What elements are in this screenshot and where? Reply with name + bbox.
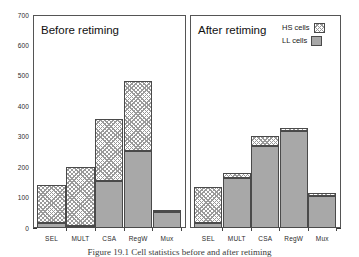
stacked-bar: [308, 193, 336, 228]
stacked-bar: [194, 187, 222, 228]
stacked-bar: [95, 119, 123, 228]
bar-segment-ll-cells: [37, 223, 65, 228]
y-axis-tick-mark-right: [337, 228, 341, 229]
stacked-bar: [124, 81, 152, 228]
bar-segment-hs-cells: [194, 187, 222, 223]
y-axis-tick-label: 500: [5, 72, 29, 79]
x-axis-tick-mark: [308, 228, 309, 231]
bar-segment-hs-cells: [37, 185, 65, 222]
stacked-bar: [251, 136, 279, 228]
stacked-bar: [280, 128, 308, 228]
y-axis-tick-label: 200: [5, 164, 29, 171]
x-axis-tick-mark: [95, 228, 96, 231]
bar-segment-hs-cells: [66, 167, 94, 226]
hatched-swatch-icon: [314, 23, 325, 33]
y-axis-tick-label: 100: [5, 194, 29, 201]
bar-segment-ll-cells: [95, 181, 123, 228]
chart-plot-area: 7006005004003002001000 Before retiming A…: [0, 0, 359, 257]
y-axis-tick-label: 400: [5, 103, 29, 110]
x-axis-tick-label: Mux: [147, 235, 187, 242]
figure-caption: Figure 19.1 Cell statistics before and a…: [0, 247, 359, 257]
bar-segment-ll-cells: [251, 146, 279, 228]
bar-segment-ll-cells: [223, 178, 251, 228]
panel-title-before: Before retiming: [41, 24, 119, 36]
stacked-bar: [37, 185, 65, 228]
bar-segment-ll-cells: [124, 151, 152, 228]
panel-title-after: After retiming: [198, 24, 266, 36]
chart-legend: HS cells LL cells: [282, 22, 338, 48]
y-axis-tick-label: 0: [5, 225, 29, 232]
x-axis-tick-mark: [251, 228, 252, 231]
bar-segment-ll-cells: [308, 196, 336, 228]
x-axis-tick-mark: [222, 228, 223, 231]
y-axis-tick-label: 300: [5, 133, 29, 140]
legend-entry-hs: HS cells: [282, 22, 325, 33]
legend-label-ll: LL cells: [282, 36, 307, 45]
y-axis-tick-label: 700: [5, 12, 29, 19]
legend-entry-ll: LL cells: [282, 35, 322, 46]
x-axis-tick-mark: [336, 228, 337, 231]
x-axis-tick-label: Mux: [302, 235, 342, 242]
x-axis-tick-mark: [124, 228, 125, 231]
stacked-bar: [223, 173, 251, 228]
bar-segment-hs-cells: [95, 119, 123, 181]
stacked-bar: [66, 167, 94, 228]
y-axis-tick-label: 600: [5, 42, 29, 49]
x-axis-tick-mark: [181, 228, 182, 231]
bar-segment-hs-cells: [251, 136, 279, 146]
x-axis-tick-mark: [279, 228, 280, 231]
y-axis-tick-mark: [33, 228, 37, 229]
bar-segment-ll-cells: [153, 212, 181, 228]
bar-segment-ll-cells: [194, 223, 222, 228]
bar-segment-ll-cells: [280, 131, 308, 228]
x-axis-tick-mark: [152, 228, 153, 231]
stacked-bar: [153, 210, 181, 228]
solid-gray-swatch-icon: [311, 36, 322, 46]
bar-segment-hs-cells: [124, 81, 152, 151]
legend-label-hs: HS cells: [282, 23, 310, 32]
x-axis-tick-mark: [66, 228, 67, 231]
bar-segment-ll-cells: [66, 226, 94, 228]
figure-container: 7006005004003002001000 Before retiming A…: [0, 0, 359, 257]
